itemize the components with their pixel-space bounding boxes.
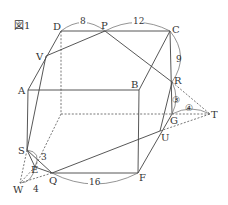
cube-cross-section-diagram: 図1 [0, 0, 228, 205]
vertex-T: T [211, 109, 218, 120]
measurement-labels: 8 12 9 ③ ④ 3 4 16 [33, 16, 193, 194]
vertex-W: W [13, 184, 24, 195]
vertex-R: R [174, 75, 182, 86]
edge-HE-hidden [35, 114, 61, 167]
label-GT: ④ [185, 103, 193, 113]
edge-BF [138, 90, 139, 173]
figure-caption: 図1 [14, 20, 30, 31]
vertex-C: C [172, 24, 180, 35]
measurement-arcs [20, 23, 210, 185]
label-PC: 12 [133, 16, 144, 26]
label-SE: 3 [41, 152, 47, 162]
label-CR: 9 [176, 54, 182, 64]
edge-DA [28, 31, 61, 90]
section-VS [27, 56, 46, 150]
vertex-F: F [139, 172, 146, 183]
section-RP [105, 31, 172, 82]
label-QF: 16 [89, 177, 101, 187]
vertex-S: S [18, 145, 25, 156]
vertex-G: G [170, 115, 178, 126]
edge-FG [138, 114, 172, 173]
vertex-E: E [31, 164, 38, 175]
edge-AS [27, 90, 28, 150]
section-QU [52, 131, 160, 173]
visible-edges [27, 31, 172, 173]
section-PV [46, 31, 105, 56]
label-DP: 8 [80, 16, 86, 26]
vertex-B: B [131, 79, 138, 90]
vertex-D: D [53, 21, 61, 32]
vertex-P: P [101, 20, 108, 31]
label-RG: ③ [172, 95, 180, 105]
vertex-U: U [161, 132, 169, 143]
vertex-V: V [35, 51, 44, 62]
label-EW: 4 [33, 184, 39, 194]
vertex-Q: Q [49, 175, 57, 186]
vertex-A: A [17, 85, 26, 96]
